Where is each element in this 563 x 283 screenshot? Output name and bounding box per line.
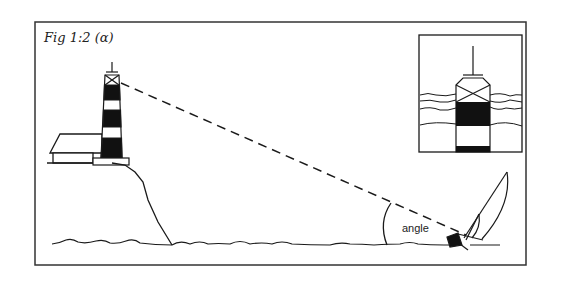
sight-line xyxy=(121,83,466,235)
sea-line xyxy=(52,239,500,245)
inset-view xyxy=(419,35,522,152)
angle-label: angle xyxy=(402,222,429,234)
figure-caption: Fig 1:2 (α) xyxy=(44,30,114,45)
cliff xyxy=(112,163,172,245)
angle-arc xyxy=(383,203,391,245)
sailboat xyxy=(447,172,508,250)
